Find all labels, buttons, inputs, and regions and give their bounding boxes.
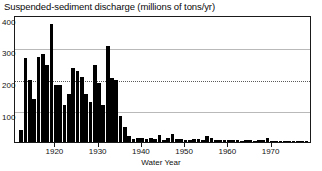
bar: [171, 134, 175, 142]
bar: [201, 140, 205, 142]
bar: [179, 139, 183, 142]
bar: [248, 140, 252, 142]
xtick-label-1970: 1970: [262, 147, 280, 156]
bar: [184, 140, 188, 142]
bar: [37, 57, 41, 142]
bar: [205, 136, 209, 142]
bar: [93, 65, 97, 143]
bar: [63, 105, 67, 142]
bar: [296, 141, 300, 142]
chart-figure: Suspended-sediment discharge (millions o…: [0, 0, 322, 171]
bar: [132, 139, 136, 142]
bar: [305, 141, 309, 142]
bar: [236, 140, 240, 142]
bars-layer: [15, 17, 310, 142]
bar: [162, 140, 166, 142]
ytick-label-200: 200: [2, 82, 15, 90]
xtick-label-1940: 1940: [132, 147, 150, 156]
bar: [97, 83, 101, 142]
bar: [266, 138, 270, 142]
bar: [274, 141, 278, 142]
bar: [28, 80, 32, 142]
bar: [270, 141, 274, 142]
bar: [149, 138, 153, 142]
bar: [227, 140, 231, 142]
bar: [197, 139, 201, 142]
bar: [253, 141, 257, 142]
bar: [283, 141, 287, 142]
bar: [58, 85, 62, 142]
bar: [244, 140, 248, 142]
xtick-label-1950: 1950: [175, 147, 193, 156]
xtick-label-1930: 1930: [89, 147, 107, 156]
bar: [210, 138, 214, 142]
bar: [114, 80, 118, 142]
bar: [45, 65, 49, 143]
ytick-label-300: 300: [2, 50, 15, 58]
bar: [89, 102, 93, 142]
bar: [32, 99, 36, 142]
bar: [214, 140, 218, 142]
bar: [76, 71, 80, 142]
bar: [84, 94, 88, 142]
bar: [287, 141, 291, 142]
bar: [257, 140, 261, 142]
bar: [188, 140, 192, 142]
plot-area: [14, 16, 311, 143]
bar: [80, 77, 84, 142]
bar: [175, 139, 179, 142]
xtick-label-1920: 1920: [46, 147, 64, 156]
bar: [41, 54, 45, 142]
bar: [140, 138, 144, 142]
bar: [261, 140, 265, 142]
xaxis-title: Water Year: [0, 158, 322, 167]
bar: [292, 141, 296, 142]
bar: [136, 138, 140, 142]
ytick-label-100: 100: [2, 114, 15, 122]
bar: [119, 116, 123, 142]
bar: [54, 85, 58, 142]
bar: [101, 105, 105, 142]
bar: [166, 138, 170, 142]
bar: [24, 58, 28, 142]
bar: [19, 130, 23, 142]
bar: [123, 127, 127, 143]
bar: [223, 140, 227, 142]
xtick-label-1960: 1960: [218, 147, 236, 156]
bar: [110, 78, 114, 142]
bar: [127, 136, 131, 142]
bar: [279, 141, 283, 142]
ytick-label-400: 400: [2, 19, 15, 27]
bar: [231, 140, 235, 142]
bar: [218, 140, 222, 142]
bar: [106, 46, 110, 142]
bar: [158, 135, 162, 142]
bar: [153, 139, 157, 142]
bar: [67, 94, 71, 142]
chart-title: Suspended-sediment discharge (millions o…: [4, 1, 215, 12]
bar: [192, 139, 196, 142]
bar: [71, 68, 75, 142]
bar: [50, 24, 54, 142]
bar: [240, 141, 244, 142]
bar: [300, 141, 304, 142]
plot-inner: [15, 17, 310, 142]
bar: [145, 139, 149, 142]
